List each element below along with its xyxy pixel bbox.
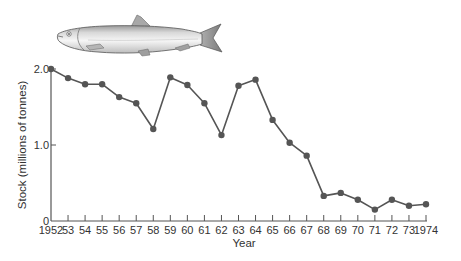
data-point (389, 197, 395, 203)
x-axis-title: Year (232, 237, 255, 249)
data-series (48, 66, 429, 213)
x-tick-label: 1952 (39, 224, 63, 236)
y-ticks: 01.02.0 (34, 63, 56, 227)
data-point (133, 100, 139, 106)
data-point (286, 140, 292, 146)
series-line (51, 69, 426, 210)
herring-stock-chart: 01.02.0 19525354555657585960616263646566… (0, 0, 461, 261)
x-tick-label: 64 (249, 224, 261, 236)
x-tick-label: 72 (386, 224, 398, 236)
data-point (116, 94, 122, 100)
x-tick-label: 57 (130, 224, 142, 236)
data-point (99, 81, 105, 87)
x-tick-label: 54 (79, 224, 91, 236)
x-tick-label: 59 (164, 224, 176, 236)
x-tick-label: 67 (301, 224, 313, 236)
x-tick-label: 62 (215, 224, 227, 236)
data-point (235, 83, 241, 89)
data-point (82, 81, 88, 87)
x-tick-label: 1974 (414, 224, 438, 236)
x-ticks: 1952535455565758596061626364656667686970… (39, 215, 438, 236)
data-point (355, 197, 361, 203)
data-point (372, 206, 378, 212)
x-tick-label: 63 (232, 224, 244, 236)
x-tick-label: 66 (284, 224, 296, 236)
data-point (65, 75, 71, 81)
y-tick-label: 2.0 (34, 63, 49, 75)
data-point (150, 126, 156, 132)
data-point (338, 190, 344, 196)
x-tick-label: 69 (335, 224, 347, 236)
x-tick-label: 68 (318, 224, 330, 236)
x-tick-label: 60 (181, 224, 193, 236)
data-point (303, 152, 309, 158)
x-tick-label: 65 (266, 224, 278, 236)
x-tick-label: 71 (369, 224, 381, 236)
x-tick-label: 58 (147, 224, 159, 236)
x-tick-label: 56 (113, 224, 125, 236)
x-tick-label: 55 (96, 224, 108, 236)
data-point (184, 82, 190, 88)
data-point (167, 74, 173, 80)
data-point (321, 193, 327, 199)
data-point (252, 76, 258, 82)
data-point (201, 100, 207, 106)
fish-icon (57, 15, 222, 56)
data-point (269, 117, 275, 123)
y-tick-label: 1.0 (34, 139, 49, 151)
data-point (48, 66, 54, 72)
data-point (218, 132, 224, 138)
x-tick-label: 53 (62, 224, 74, 236)
y-axis-title: Stock (millions of tonnes) (16, 81, 28, 210)
x-tick-label: 61 (198, 224, 210, 236)
data-point (406, 203, 412, 209)
data-point (423, 201, 429, 207)
x-tick-label: 70 (352, 224, 364, 236)
